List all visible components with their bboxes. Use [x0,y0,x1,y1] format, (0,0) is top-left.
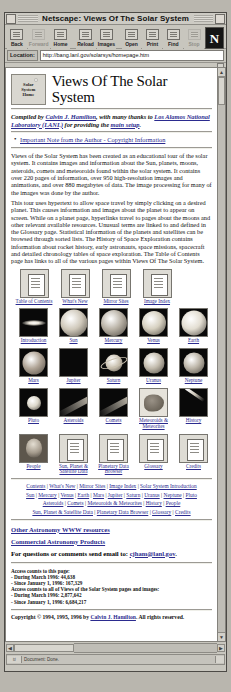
footer-link[interactable]: Comets [67,500,83,506]
stop-button[interactable]: Stop [184,27,204,51]
people-thumb [19,434,48,463]
planet-cell[interactable]: Comets [95,388,132,430]
planet-cell[interactable]: Uranus [135,348,172,384]
document-icon [179,434,208,463]
footer-link[interactable]: Earth [77,492,89,498]
planet-label: Venus [147,338,160,344]
footer-link[interactable]: Contents [26,483,45,489]
h-scroll-trough[interactable] [74,643,217,653]
find-button[interactable]: Find [163,27,183,51]
footer-link[interactable]: Meteoroids & Meteorites [87,500,142,506]
planet-cell[interactable]: Planetary Data Browser [95,434,132,476]
important-note-item: Important Note from the Author - Copyrig… [20,136,212,144]
email-link[interactable]: cjham@lanl.gov [130,550,176,557]
commercial-products-link[interactable]: Commercial Astronomy Products [11,538,105,545]
home-button[interactable]: Home [51,27,71,51]
footer-link[interactable]: Planetary Data Browser [97,509,149,515]
footer-link[interactable]: Mirror Sites [79,483,105,489]
footer-link[interactable]: Glossary [152,509,171,515]
document-icon [99,434,128,463]
footer-link[interactable]: Venus [61,492,74,498]
author-link[interactable]: Calvin J. Hamilton [45,113,96,120]
planet-cell[interactable]: People [15,434,52,476]
h-scroll-thumb[interactable] [14,644,74,652]
footer-link[interactable]: Sun, Planet & Satellite Data [32,509,93,515]
scroll-right-arrow[interactable]: ▶ [217,644,225,652]
footer-link[interactable]: Saturn [126,492,140,498]
footer-link[interactable]: Mars [93,492,104,498]
footer-link-lists: Contents | What's New | Mirror Sites | I… [11,483,212,515]
footer-link[interactable]: Uranus [144,492,160,498]
footer-link[interactable]: Asteroids [43,500,64,506]
copyright-author-link[interactable]: Calvin J. Hamilton [90,614,136,620]
resize-grip[interactable] [215,656,224,663]
venus-thumb [139,308,168,337]
nav-cell-whats-new[interactable]: What's New [56,269,94,305]
reload-button[interactable]: Reload [76,27,96,51]
page-title: Views Of The Solar System [52,73,212,105]
saturn-thumb [99,348,128,377]
planet-cell[interactable]: Sun, Planet & Satellite Data [55,434,92,476]
sun-thumb [59,308,88,337]
back-button[interactable]: Back [7,27,27,51]
planet-label: People [26,464,40,470]
planet-cell[interactable]: History [175,388,212,430]
nav-cell-image-index[interactable]: Image Index [138,269,176,305]
planet-label: Meteoroids & Meteorites [135,418,172,430]
footer-link[interactable]: Neptune [163,492,181,498]
window-close-box[interactable] [6,14,16,24]
planet-cell[interactable]: Saturn [95,348,132,384]
scroll-thumb[interactable] [218,77,225,105]
footer-link[interactable]: Jupiter [108,492,123,498]
footer-link[interactable]: Solar System Introduction [140,483,197,489]
nav-cell-contents[interactable]: Table of Contents [15,269,53,305]
planet-cell[interactable]: Meteoroids & Meteorites [135,388,172,430]
planet-cell[interactable]: Sun [55,308,92,344]
planet-cell[interactable]: Asteroids [55,388,92,430]
nav-cell-mirror-sites[interactable]: Mirror Sites [97,269,135,305]
window-zoom-box[interactable] [215,14,225,24]
horizontal-scrollbar[interactable]: ◀ ▶ [6,643,225,652]
comets-thumb [99,388,128,417]
location-label: Location: [7,50,38,61]
document-icon [102,269,131,298]
planet-cell[interactable]: Jupiter [55,348,92,384]
scroll-down-arrow[interactable]: ▼ [218,632,225,641]
planet-label: Neptune [185,378,203,384]
images-button[interactable]: Images [97,27,117,51]
scroll-left-arrow[interactable]: ◀ [6,644,14,652]
scroll-up-arrow[interactable]: ▲ [218,68,225,77]
planet-cell[interactable]: Credits [175,434,212,476]
open-button[interactable]: Open [122,27,142,51]
planet-cell[interactable]: Neptune [175,348,212,384]
planet-cell[interactable]: Pluto [15,388,52,430]
main-setup-link[interactable]: main setup [111,121,140,128]
planet-cell[interactable]: Introduction [15,308,52,344]
planet-cell[interactable]: Glossary [135,434,172,476]
scroll-trough[interactable] [218,105,225,632]
planet-cell[interactable]: Mercury [95,308,132,344]
planet-disk [143,352,164,373]
footer-link-row: Sun, Planet & Satellite Data | Planetary… [13,509,210,516]
meteorite-rock [144,394,164,411]
solar-system-home-logo[interactable]: Solar System Home [11,74,46,105]
location-input[interactable]: http://bang.lanl.gov/solarsys/homepage.h… [40,50,224,61]
reload-icon [79,29,92,40]
footer-link[interactable]: History [146,500,162,506]
footer-link[interactable]: Image Index [109,483,136,489]
footer-link[interactable]: Credits [175,509,191,515]
important-note-link[interactable]: Important Note from the Author - Copyrig… [20,136,165,143]
print-button[interactable]: Print [142,27,162,51]
netscape-logo-icon[interactable]: N [205,27,224,49]
other-astronomy-link[interactable]: Other Astronomy WWW resources [11,526,110,533]
forward-button[interactable]: Forward [28,27,50,51]
footer-link[interactable]: People [166,500,181,506]
vertical-scrollbar[interactable]: ▲ ▼ [217,67,226,642]
planet-cell[interactable]: Venus [135,308,172,344]
planet-label: Jupiter [66,378,80,384]
planet-cell[interactable]: Earth [175,308,212,344]
planet-cell[interactable]: Mars [15,348,52,384]
footer-link[interactable]: Pluto [186,492,197,498]
footer-link[interactable]: Mercury [38,492,57,498]
footer-link[interactable]: What's New [49,483,75,489]
